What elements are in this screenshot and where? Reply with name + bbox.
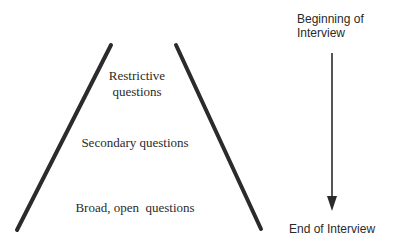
restrictive-line-2: questions (100, 84, 174, 100)
begin-line-2: Interview (297, 26, 364, 40)
restrictive-questions-label: Restrictive questions (100, 68, 174, 100)
interview-funnel-diagram: Restrictive questions Secondary question… (0, 0, 407, 245)
beginning-of-interview-label: Beginning of Interview (297, 12, 364, 40)
end-of-interview-label: End of Interview (289, 222, 375, 236)
restrictive-line-1: Restrictive (100, 68, 174, 84)
begin-line-1: Beginning of (297, 12, 364, 26)
secondary-questions-label: Secondary questions (76, 135, 194, 151)
arrow-down-icon (327, 196, 337, 211)
broad-open-questions-label: Broad, open questions (68, 200, 202, 216)
